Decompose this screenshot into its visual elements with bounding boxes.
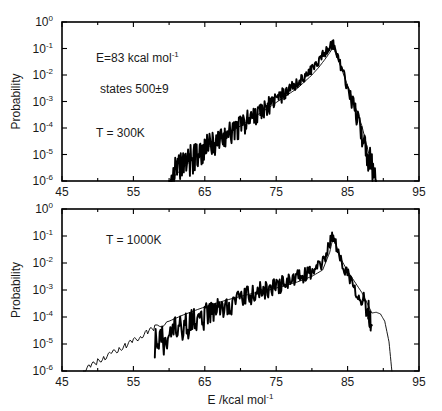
- xtick-label-top-3: 75: [270, 185, 284, 199]
- ytick-label-top-1: 10-1: [33, 41, 54, 56]
- xtick-label-bottom-1: 55: [127, 375, 141, 389]
- curve-top-simulation: [169, 40, 376, 181]
- figure-container: 45556575859510010-110-210-310-410-510-6P…: [0, 0, 442, 411]
- ytick-label-top-2: 10-2: [33, 67, 54, 82]
- curve-bottom-theory: [83, 236, 391, 371]
- ytick-label-top-4: 10-4: [33, 120, 54, 135]
- xtick-label-bottom-0: 45: [55, 375, 69, 389]
- xtick-label-top-5: 95: [412, 185, 426, 199]
- ytick-label-bottom-3: 10-3: [33, 282, 54, 297]
- xtick-label-top-0: 45: [55, 185, 69, 199]
- annotation-bottom-0: T = 1000K: [106, 233, 162, 247]
- xtick-label-top-1: 55: [127, 185, 141, 199]
- ytick-label-top-0: 100: [35, 14, 53, 29]
- yaxis-title-bottom: Probability: [9, 262, 23, 318]
- ytick-label-bottom-2: 10-2: [33, 255, 54, 270]
- probability-vs-energy-figure: 45556575859510010-110-210-310-410-510-6P…: [0, 0, 442, 411]
- ytick-label-top-3: 10-3: [33, 94, 54, 109]
- ytick-label-bottom-0: 100: [35, 201, 53, 216]
- plot-frame-top: [62, 22, 419, 181]
- ytick-label-top-5: 10-5: [33, 147, 54, 162]
- xtick-label-bottom-5: 95: [412, 375, 426, 389]
- ytick-label-bottom-4: 10-4: [33, 309, 54, 324]
- xaxis-title-bottom: E /kcal mol-1: [208, 392, 274, 407]
- panel-top: 45556575859510010-110-210-310-410-510-6P…: [9, 14, 426, 199]
- yaxis-title-top: Probability: [9, 73, 23, 129]
- ytick-label-top-6: 10-6: [33, 173, 54, 188]
- annotation-top-2: T = 300K: [96, 126, 145, 140]
- panel-bottom: 45556575859510010-110-210-310-410-510-6P…: [9, 201, 426, 407]
- xtick-label-bottom-3: 75: [270, 375, 284, 389]
- ytick-label-bottom-1: 10-1: [33, 228, 54, 243]
- xtick-label-top-2: 65: [198, 185, 212, 199]
- xtick-label-bottom-2: 65: [198, 375, 212, 389]
- annotation-top-1: states 500±9: [100, 82, 169, 96]
- ytick-label-bottom-5: 10-5: [33, 336, 54, 351]
- xtick-label-bottom-4: 85: [341, 375, 355, 389]
- curve-top-theory: [169, 47, 376, 181]
- curve-bottom-simulation: [155, 232, 372, 357]
- xtick-label-top-4: 85: [341, 185, 355, 199]
- ytick-label-bottom-6: 10-6: [33, 363, 54, 378]
- annotation-top-0: E=83 kcal mol-1: [96, 50, 179, 65]
